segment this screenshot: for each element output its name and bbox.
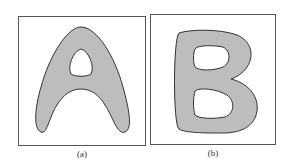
letter-b-shape	[151, 15, 275, 144]
panel-a	[18, 16, 146, 146]
caption-b: (b)	[193, 148, 233, 158]
letter-a-shape	[19, 17, 145, 145]
caption-a: (a)	[62, 149, 102, 159]
panel-b	[150, 14, 276, 145]
